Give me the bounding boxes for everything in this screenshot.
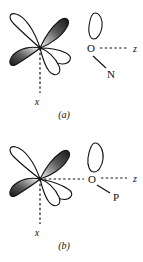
orbital-diagram-panel-b: x O z P (b) [0,131,143,262]
panel-caption-b: (b) [58,240,70,252]
lone-pair-lobe-a [89,13,102,39]
orbital-center-node-b [38,177,41,180]
atom-label-oxygen-b: O [88,173,96,185]
x-axis-label-b: x [34,227,40,238]
orbital-diagram-panel-a: x O z N (a) [0,0,143,131]
bond-oxygen-nitrogen-a [93,56,106,68]
lone-pair-lobe-b [88,143,103,172]
panel-caption-a: (a) [58,109,70,121]
atom-label-nitrogen-a: N [107,68,115,80]
atom-label-oxygen-a: O [87,42,95,54]
z-axis-label-a: z [132,43,137,54]
atom-label-phosphorus-b: P [113,191,119,203]
bond-oxygen-phosphorus-b [97,185,110,193]
orbital-lobe-lower-left-b [10,178,40,196]
orbital-lobe-upper-right-b [40,150,69,179]
orbital-lobe-upper-left-b [10,147,40,179]
orbital-lobe-upper-right-a [40,18,68,48]
orbital-lobe-lower-left-a [10,47,40,65]
z-axis-label-b: z [132,173,137,184]
x-axis-label-a: x [34,96,40,107]
orbital-lobe-upper-left-a [10,14,40,48]
orbital-center-node-a [38,46,41,49]
